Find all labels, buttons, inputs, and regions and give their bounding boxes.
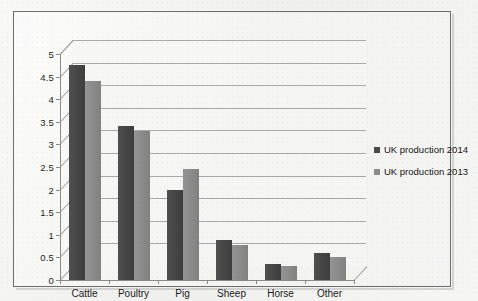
x-axis-label-horse: Horse [267, 288, 294, 299]
bar-group [314, 253, 346, 280]
y-axis-tick-label: 2.5 [40, 162, 54, 173]
y-axis-tick [56, 122, 60, 123]
y-axis-tick [56, 144, 60, 145]
gridline [72, 108, 366, 109]
bar-horse-uk-production-2014 [265, 264, 281, 280]
gridline [72, 221, 366, 222]
bar-group [69, 65, 101, 280]
x-axis-tick [109, 280, 110, 284]
bar-pig-uk-production-2014 [167, 190, 183, 280]
x-axis-tick [305, 280, 306, 284]
y-axis-tick [56, 235, 60, 236]
bar-group [216, 240, 248, 280]
y-axis-tick-label: 5 [49, 49, 54, 60]
bar-cattle-uk-production-2013 [85, 81, 101, 280]
x-axis-tick [207, 280, 208, 284]
bar-horse-uk-production-2013 [281, 266, 297, 280]
x-axis-tick [256, 280, 257, 284]
bar-cattle-uk-production-2014 [69, 65, 85, 280]
legend-swatch-icon [374, 169, 380, 175]
x-axis-label-cattle: Cattle [71, 288, 97, 299]
bar-group [265, 264, 297, 280]
legend-item: UK production 2014 [374, 144, 462, 155]
y-axis-tick-label: 4 [49, 94, 54, 105]
bar-group [167, 169, 199, 280]
bar-group [118, 126, 150, 280]
chart-legend: UK production 2014UK production 2013 [374, 144, 462, 188]
y-axis-tick-label: 3 [49, 139, 54, 150]
x-axis-tick [60, 280, 61, 284]
y-axis-tick [56, 99, 60, 100]
bar-other-uk-production-2013 [330, 257, 346, 280]
bar-poultry-uk-production-2013 [134, 131, 150, 280]
x-axis-tick [158, 280, 159, 284]
gridline [72, 130, 366, 131]
bar-sheep-uk-production-2014 [216, 240, 232, 280]
floor-depth-edge [354, 266, 368, 281]
y-axis-tick [56, 257, 60, 258]
y-axis-tick [56, 77, 60, 78]
y-axis-tick-label: 0.5 [40, 252, 54, 263]
bar-sheep-uk-production-2013 [232, 245, 248, 280]
gridline [72, 153, 366, 154]
gridline [72, 198, 366, 199]
legend-item-label: UK production 2013 [384, 166, 468, 177]
y-axis-tick [56, 190, 60, 191]
y-axis-tick-label: 0 [49, 275, 54, 286]
plot-area: 00.511.522.533.544.55 CattlePoultryPigSh… [60, 54, 354, 280]
bar-pig-uk-production-2013 [183, 169, 199, 280]
x-axis-label-poultry: Poultry [118, 288, 149, 299]
gridline [72, 63, 366, 64]
x-axis-label-pig: Pig [175, 288, 189, 299]
legend-swatch-icon [374, 147, 380, 153]
bar-poultry-uk-production-2014 [118, 126, 134, 280]
y-axis-tick-label: 1.5 [40, 207, 54, 218]
y-axis-tick-label: 4.5 [40, 71, 54, 82]
gridline [72, 176, 366, 177]
chart-frame: 00.511.522.533.544.55 CattlePoultryPigSh… [13, 11, 451, 287]
y-axis-tick-label: 1 [49, 229, 54, 240]
gridline [72, 40, 366, 41]
x-axis-tick [354, 280, 355, 284]
y-axis-tick [56, 212, 60, 213]
y-axis-tick [56, 167, 60, 168]
gridline [72, 85, 366, 86]
bar-other-uk-production-2014 [314, 253, 330, 280]
x-axis-label-sheep: Sheep [217, 288, 246, 299]
y-axis-tick-label: 2 [49, 184, 54, 195]
legend-item: UK production 2013 [374, 166, 462, 177]
legend-item-label: UK production 2014 [384, 144, 468, 155]
y-axis-tick [56, 54, 60, 55]
x-axis-label-other: Other [317, 288, 342, 299]
chart-page: 00.511.522.533.544.55 CattlePoultryPigSh… [0, 0, 478, 301]
y-axis-tick-label: 3.5 [40, 116, 54, 127]
